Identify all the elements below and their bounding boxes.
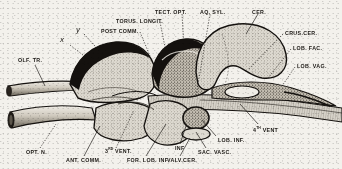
label-lob-vag: LOB. VAG. <box>297 64 327 69</box>
label-aq-syl: AQ. SYL. <box>200 10 225 15</box>
label-marker-x: x <box>60 36 64 44</box>
label-valv-cer: VALV.CER. <box>167 158 197 163</box>
label-opt-n: OPT. N. <box>26 150 47 155</box>
label-lob-inf: LOB. INF. <box>218 138 245 143</box>
label-vent-4: 4TH VENT <box>253 127 278 133</box>
label-marker-y: y <box>76 26 80 34</box>
label-vent-3: 3RD VENT. <box>105 148 132 154</box>
label-inf: INF <box>175 146 185 151</box>
vent-4-tail: VENT <box>261 127 278 133</box>
label-sac-vasc: SAC. VASC. <box>198 150 231 155</box>
label-cer: CER. <box>252 10 266 15</box>
label-for-lob-inf: FOR. LOB. INF. <box>127 158 170 163</box>
label-crus-cer: CRUS.CER. <box>285 31 317 36</box>
label-ant-comm: ANT. COMM. <box>66 158 101 163</box>
anatomical-figure: OLF. TR. x y POST COMM. TORUS. LONGIT. T… <box>0 0 342 169</box>
label-post-comm: POST COMM. <box>101 29 139 34</box>
brain-illustration <box>0 0 342 169</box>
label-lob-fac: LOB. FAC. <box>293 46 322 51</box>
label-olf-tr: OLF. TR. <box>18 58 42 63</box>
label-torus-longit: TORUS. LONGIT. <box>116 19 163 24</box>
label-tect-opt: TECT. OPT. <box>155 10 186 15</box>
vent-3-tail: VENT. <box>113 148 132 154</box>
